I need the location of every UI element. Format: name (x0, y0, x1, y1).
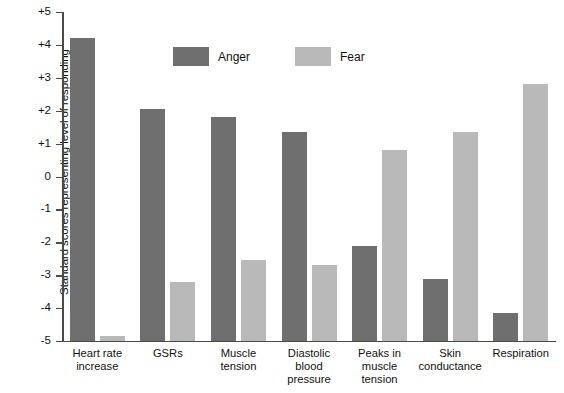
y-axis-tick-label: +5 (21, 6, 51, 17)
legend-entry-anger: Anger (173, 47, 250, 66)
y-axis-tick-label: +1 (21, 138, 51, 149)
y-axis-tick-label: -1 (21, 203, 51, 214)
bar-fear (241, 260, 266, 341)
y-axis-tick-label: +3 (21, 72, 51, 83)
bar-fear (100, 336, 125, 341)
y-axis-tick-label: -4 (21, 302, 51, 313)
x-axis-label: Heart rate increase (62, 347, 133, 373)
x-axis-label: GSRs (133, 347, 204, 360)
y-axis-tick-label: +2 (21, 105, 51, 116)
legend-swatch-anger (173, 47, 209, 66)
x-axis-label: Muscle tension (203, 347, 274, 373)
legend-label-fear: Fear (340, 50, 365, 64)
legend-entry-fear: Fear (295, 47, 365, 66)
bar-anger (493, 313, 518, 341)
bar-fear (523, 84, 548, 341)
y-axis-tick-label: -2 (21, 236, 51, 247)
legend-label-anger: Anger (218, 50, 250, 64)
bar-anger (423, 279, 448, 342)
bar-fear (312, 265, 337, 341)
bar-anger (211, 117, 236, 341)
x-axis-label: Peaks in muscle tension (344, 347, 415, 387)
bar-anger (70, 38, 95, 341)
x-axis-label: Respiration (485, 347, 556, 360)
bar-anger (282, 132, 307, 341)
legend: Anger Fear (173, 47, 365, 66)
x-axis-label: Diastolic blood pressure (274, 347, 345, 387)
bar-fear (170, 282, 195, 341)
bar-fear (382, 150, 407, 341)
bar-anger (352, 246, 377, 341)
bar-anger (140, 109, 165, 341)
y-axis-tick-label: 0 (21, 171, 51, 182)
legend-swatch-fear (295, 47, 331, 66)
bar-fear (453, 132, 478, 341)
y-axis-tick-label: +4 (21, 39, 51, 50)
x-axis-label: Skin conductance (415, 347, 486, 373)
bar-chart: Standard scores representing level of re… (0, 0, 564, 393)
y-axis-tick-label: -3 (21, 269, 51, 280)
y-axis-tick-label: -5 (21, 335, 51, 346)
